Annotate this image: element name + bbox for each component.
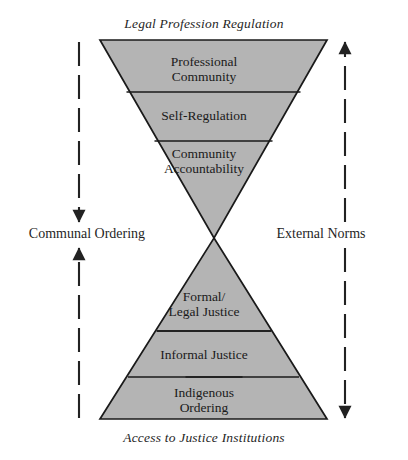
diagram-canvas: Legal Profession Regulation Access to Ju… bbox=[0, 0, 408, 460]
band-label-indigenous-ordering: Indigenous Ordering bbox=[84, 385, 324, 415]
band-label-community-accountability: Community Accountability bbox=[84, 146, 324, 176]
band-label-formal-legal-justice: Formal/ Legal Justice bbox=[84, 289, 324, 319]
axis-label-left: Communal Ordering bbox=[2, 226, 172, 242]
band-label-self-regulation: Self-Regulation bbox=[84, 108, 324, 123]
axis-label-right: External Norms bbox=[236, 226, 406, 242]
band-label-professional-community: Professional Community bbox=[84, 54, 324, 84]
band-label-informal-justice: Informal Justice bbox=[84, 347, 324, 362]
title-top: Legal Profession Regulation bbox=[0, 16, 408, 31]
title-bottom: Access to Justice Institutions bbox=[0, 430, 408, 445]
